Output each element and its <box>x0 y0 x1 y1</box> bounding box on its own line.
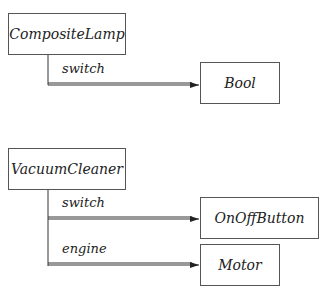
class-motor[interactable]: Motor <box>200 244 280 286</box>
class-bool[interactable]: Bool <box>200 62 280 104</box>
class-label: CompositeLamp <box>9 26 124 42</box>
relation-label-switch-vacuum: switch <box>62 195 105 210</box>
class-on-off-button[interactable]: OnOffButton <box>200 197 319 239</box>
class-label: Motor <box>218 257 262 273</box>
relation-label-engine: engine <box>62 241 107 256</box>
class-composite-lamp[interactable]: CompositeLamp <box>8 13 126 55</box>
class-label: OnOffButton <box>215 210 305 226</box>
class-label: Bool <box>224 75 256 91</box>
relation-label-switch-lamp: switch <box>62 61 105 76</box>
class-label: VacuumCleaner <box>11 161 123 177</box>
class-vacuum-cleaner[interactable]: VacuumCleaner <box>8 148 126 190</box>
